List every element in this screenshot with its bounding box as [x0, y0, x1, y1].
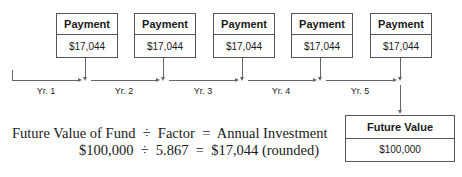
payment-box-1: Payment $17,044 — [56, 13, 118, 58]
arrow-right-icon — [235, 78, 239, 82]
payment-drop-line-4 — [320, 58, 321, 78]
year-label-4: Yr. 4 — [266, 86, 296, 96]
payment-drop-line-5 — [400, 58, 401, 78]
arrow-down-icon — [318, 77, 322, 81]
payment-drop-line-2 — [163, 58, 164, 78]
timeline-segment-5 — [326, 80, 393, 81]
payment-label: Payment — [57, 14, 117, 35]
arrow-down-icon — [398, 77, 402, 81]
arrow-down-icon — [161, 77, 165, 81]
payment-amount: $17,044 — [292, 35, 352, 58]
payment-label: Payment — [135, 14, 195, 35]
year-label-5: Yr. 5 — [345, 86, 375, 96]
payment-box-4: Payment $17,044 — [291, 13, 353, 58]
payment-label: Payment — [371, 14, 431, 35]
formula-line-1: Future Value of Fund ÷ Factor = Annual I… — [12, 125, 328, 142]
arrow-right-icon — [393, 78, 397, 82]
payment-amount: $17,044 — [135, 35, 195, 58]
arrow-down-icon — [83, 77, 87, 81]
timeline-segment-4 — [248, 80, 313, 81]
year-label-2: Yr. 2 — [109, 86, 139, 96]
payment-label: Payment — [292, 14, 352, 35]
year-label-3: Yr. 3 — [188, 86, 218, 96]
payment-label: Payment — [214, 14, 274, 35]
payment-amount: $17,044 — [371, 35, 431, 58]
timeline-segment-1 — [12, 80, 79, 81]
timeline-segment-2 — [91, 80, 156, 81]
future-value-label: Future Value — [346, 116, 454, 139]
future-value-drop-line — [400, 85, 401, 111]
arrow-down-icon — [240, 77, 244, 81]
formula-line-2: $100,000 ÷ 5.867 = $17,044 (rounded) — [79, 142, 319, 159]
payment-drop-line-1 — [85, 58, 86, 78]
timeline-segment-3 — [169, 80, 235, 81]
arrow-down-icon — [398, 110, 402, 114]
payment-box-5: Payment $17,044 — [370, 13, 432, 58]
payment-amount: $17,044 — [214, 35, 274, 58]
year-label-1: Yr. 1 — [31, 86, 61, 96]
payment-drop-line-3 — [242, 58, 243, 78]
arrow-right-icon — [156, 78, 160, 82]
payment-box-3: Payment $17,044 — [213, 13, 275, 58]
arrow-right-icon — [313, 78, 317, 82]
future-value-amount: $100,000 — [346, 139, 454, 161]
payment-box-2: Payment $17,044 — [134, 13, 196, 58]
future-value-box: Future Value $100,000 — [345, 115, 455, 162]
arrow-right-icon — [78, 78, 82, 82]
payment-amount: $17,044 — [57, 35, 117, 58]
